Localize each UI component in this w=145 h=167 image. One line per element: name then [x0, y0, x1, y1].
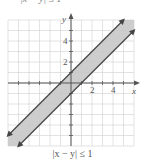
x-tick-label: 2 — [90, 85, 95, 95]
y-axis-arrow-icon — [69, 13, 74, 19]
y-tick-label: 4 — [63, 36, 68, 46]
boundary-line — [19, 31, 135, 147]
x-tick-label: 4 — [111, 85, 116, 95]
x-axis-label: x — [131, 86, 136, 96]
x-axis-arrow-icon — [134, 81, 140, 86]
y-tick-label: 2 — [63, 57, 68, 67]
inequality-graph: 2424xy — [0, 0, 145, 167]
graph-caption: |x − y| ≤ 1 — [0, 148, 145, 159]
y-axis-label: y — [61, 14, 66, 24]
